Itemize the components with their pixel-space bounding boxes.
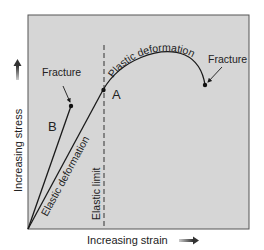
fracture-a-label: Fracture: [208, 53, 247, 65]
point-a-label: A: [112, 87, 121, 102]
y-axis-arrow-icon: [14, 59, 22, 66]
x-axis-label: Increasing strain: [87, 234, 168, 246]
elastic-limit-label: Elastic limit: [90, 167, 102, 220]
fracture-b-label: Fracture: [42, 66, 81, 78]
fracture-point-b: [69, 104, 73, 108]
point-b-label: B: [48, 119, 57, 134]
y-axis-arrow-shaft: [16, 66, 19, 80]
stress-strain-diagram: Fracture Fracture A B Plastic deformatio…: [0, 0, 264, 250]
x-axis-arrow-icon: [193, 237, 199, 245]
y-axis-label: Increasing stress: [12, 108, 24, 192]
fracture-point-a: [203, 83, 207, 87]
x-axis-arrow-shaft: [179, 239, 193, 242]
